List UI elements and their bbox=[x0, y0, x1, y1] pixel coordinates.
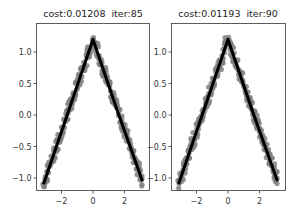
axes-2: −1.0−0.50.00.51.0−202 bbox=[147, 24, 285, 206]
plot-canvas: −1.0−0.50.00.51.0−202−1.0−0.50.00.51.0−2… bbox=[0, 0, 296, 223]
y-tick-label: −1.0 bbox=[12, 174, 31, 183]
fit-line bbox=[179, 39, 278, 184]
y-tick-label: 0.0 bbox=[19, 111, 32, 120]
y-tick-label: −1.0 bbox=[147, 174, 166, 183]
x-tick-label: 2 bbox=[122, 197, 127, 206]
x-tick-label: 0 bbox=[90, 197, 95, 206]
y-tick-label: −0.5 bbox=[147, 143, 166, 152]
scatter-points bbox=[40, 35, 144, 190]
y-tick-label: 1.0 bbox=[19, 48, 32, 57]
y-tick-label: 0.0 bbox=[154, 111, 167, 120]
x-tick-label: 2 bbox=[257, 197, 262, 206]
scatter-points bbox=[175, 35, 280, 191]
x-tick-label: −2 bbox=[56, 197, 68, 206]
y-tick-label: 0.5 bbox=[19, 80, 32, 89]
x-tick-label: 0 bbox=[225, 197, 230, 206]
x-tick-label: −2 bbox=[191, 197, 203, 206]
figure: cost:0.01208 iter:85 cost:0.01193 iter:9… bbox=[0, 0, 296, 223]
y-tick-label: 0.5 bbox=[154, 80, 167, 89]
y-tick-label: 1.0 bbox=[154, 48, 167, 57]
y-tick-label: −0.5 bbox=[12, 143, 31, 152]
fit-line bbox=[44, 39, 143, 184]
axes-1: −1.0−0.50.00.51.0−202 bbox=[12, 24, 149, 206]
